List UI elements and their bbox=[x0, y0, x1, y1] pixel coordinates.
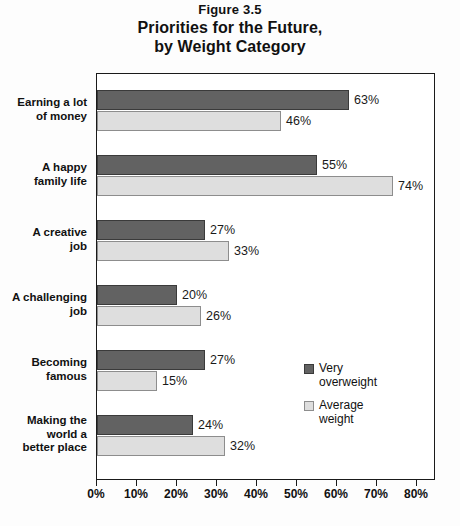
bar[interactable] bbox=[97, 90, 349, 110]
bar-value-label: 33% bbox=[234, 241, 259, 261]
legend-swatch-icon bbox=[304, 401, 314, 411]
x-tick-label: 50% bbox=[284, 487, 308, 501]
chart-title-line-1: Priorities for the Future, bbox=[0, 18, 460, 37]
bar-group: 27%33% bbox=[97, 220, 434, 261]
category-label: A challenging job bbox=[0, 291, 87, 318]
x-tick-mark bbox=[416, 480, 417, 486]
x-tick-label: 10% bbox=[124, 487, 148, 501]
legend-swatch-icon bbox=[304, 364, 314, 374]
figure-number: Figure 3.5 bbox=[0, 2, 460, 18]
x-tick-label: 40% bbox=[244, 487, 268, 501]
bar[interactable] bbox=[97, 371, 157, 391]
category-axis-labels: Earning a lot of moneyA happy family lif… bbox=[0, 73, 90, 480]
bar-value-label: 27% bbox=[210, 220, 235, 240]
chart-title-line-2: by Weight Category bbox=[0, 37, 460, 56]
bar[interactable] bbox=[97, 306, 201, 326]
bar-value-label: 20% bbox=[182, 285, 207, 305]
bar-value-label: 27% bbox=[210, 350, 235, 370]
bar[interactable] bbox=[97, 220, 205, 240]
bar-value-label: 32% bbox=[230, 436, 255, 456]
bar[interactable] bbox=[97, 285, 177, 305]
bar-value-label: 24% bbox=[198, 415, 223, 435]
bar-value-label: 46% bbox=[286, 111, 311, 131]
legend-label: Very overweight bbox=[319, 362, 377, 389]
legend: Very overweightAverage weight bbox=[304, 362, 414, 436]
bar-value-label: 55% bbox=[322, 155, 347, 175]
bar[interactable] bbox=[97, 176, 393, 196]
x-tick-label: 20% bbox=[164, 487, 188, 501]
x-tick-mark bbox=[176, 480, 177, 486]
x-tick-mark bbox=[216, 480, 217, 486]
category-label: Making the world a better place bbox=[0, 414, 87, 455]
legend-item[interactable]: Average weight bbox=[304, 399, 414, 426]
x-tick-label: 30% bbox=[204, 487, 228, 501]
legend-item[interactable]: Very overweight bbox=[304, 362, 414, 389]
title-block: Figure 3.5 Priorities for the Future, by… bbox=[0, 2, 460, 56]
x-tick-label: 0% bbox=[87, 487, 104, 501]
bar-group: 20%26% bbox=[97, 285, 434, 326]
category-label: Earning a lot of money bbox=[0, 96, 87, 123]
category-label: Becoming famous bbox=[0, 356, 87, 383]
bar[interactable] bbox=[97, 350, 205, 370]
x-tick-label: 80% bbox=[404, 487, 428, 501]
bar-value-label: 26% bbox=[206, 306, 231, 326]
category-label: A happy family life bbox=[0, 161, 87, 188]
bar-group: 55%74% bbox=[97, 155, 434, 196]
bar[interactable] bbox=[97, 111, 281, 131]
bar-value-label: 63% bbox=[354, 90, 379, 110]
bar[interactable] bbox=[97, 241, 229, 261]
category-label: A creative job bbox=[0, 226, 87, 253]
x-tick-mark bbox=[296, 480, 297, 486]
x-tick-mark bbox=[136, 480, 137, 486]
bar[interactable] bbox=[97, 415, 193, 435]
bar[interactable] bbox=[97, 155, 317, 175]
x-tick-label: 70% bbox=[364, 487, 388, 501]
bar-value-label: 15% bbox=[162, 371, 187, 391]
legend-label: Average weight bbox=[319, 399, 363, 426]
x-tick-mark bbox=[336, 480, 337, 486]
x-tick-mark bbox=[376, 480, 377, 486]
x-tick-mark bbox=[96, 480, 97, 486]
x-tick-label: 60% bbox=[324, 487, 348, 501]
bar[interactable] bbox=[97, 436, 225, 456]
x-tick-mark bbox=[256, 480, 257, 486]
bar-value-label: 74% bbox=[398, 176, 423, 196]
x-axis: 0%10%20%30%40%50%60%70%80% bbox=[96, 480, 435, 510]
bar-group: 63%46% bbox=[97, 90, 434, 131]
